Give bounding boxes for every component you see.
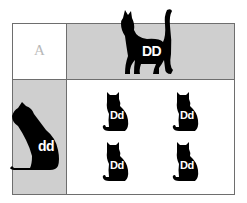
top-parent-genotype: DD [142,43,161,59]
kitten-icon: Dd [101,90,131,132]
corner-cell: A [13,24,67,80]
standing-cat-icon: DD [119,8,181,76]
kitten-icon: Dd [171,90,201,132]
sitting-cat-icon: dd [10,100,62,172]
kitten-genotype: Dd [180,109,194,121]
offspring-cell [67,80,234,194]
kitten-genotype: Dd [180,159,194,171]
kitten-icon: Dd [171,140,201,182]
kitten-icon: Dd [101,140,131,182]
left-parent-genotype: dd [38,138,54,154]
kitten-genotype: Dd [110,159,124,171]
kitten-genotype: Dd [110,109,124,121]
corner-label: A [13,42,66,59]
